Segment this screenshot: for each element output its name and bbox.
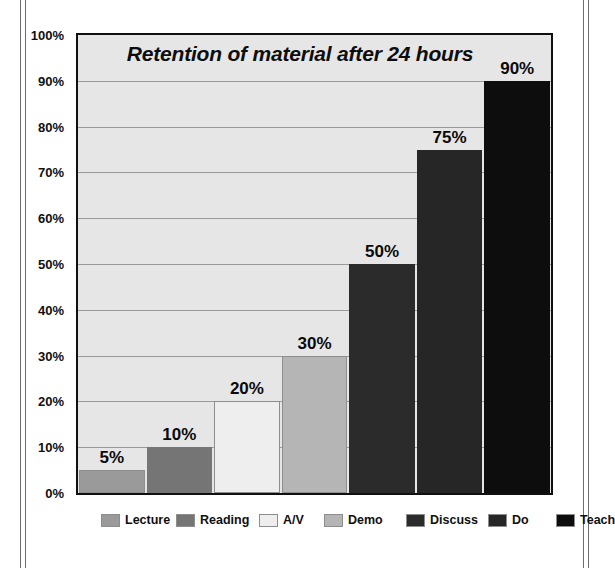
chart-title: Retention of material after 24 hours <box>110 42 490 66</box>
bar-value-label: 30% <box>282 335 348 352</box>
bar-value-label: 5% <box>79 449 145 466</box>
legend-label: Demo <box>348 514 383 527</box>
legend-swatch-icon <box>176 514 195 527</box>
y-axis-tick-label: 10% <box>38 441 64 454</box>
legend-swatch-icon <box>406 514 425 527</box>
bar-a-v <box>214 401 280 493</box>
bar-discuss <box>349 264 415 493</box>
legend-item-discuss[interactable]: Discuss <box>406 514 478 527</box>
bar-value-label: 10% <box>147 426 213 443</box>
y-axis-tick-label: 90% <box>38 74 64 87</box>
legend-label: Discuss <box>430 514 478 527</box>
legend-label: Lecture <box>125 514 170 527</box>
legend-item-a-v[interactable]: A/V <box>259 514 304 527</box>
gridline <box>78 127 551 128</box>
bar-demo <box>282 356 348 493</box>
bar-value-label: 90% <box>484 60 550 77</box>
bar-reading <box>147 447 213 493</box>
y-axis-tick-label: 100% <box>31 29 64 42</box>
y-axis-tick-label: 20% <box>38 395 64 408</box>
legend-swatch-icon <box>101 514 120 527</box>
legend-item-teach[interactable]: Teach <box>556 514 615 527</box>
bar-value-label: 75% <box>417 129 483 146</box>
y-axis-tick-label: 70% <box>38 166 64 179</box>
y-axis-tick-label: 80% <box>38 120 64 133</box>
legend-item-lecture[interactable]: Lecture <box>101 514 170 527</box>
y-axis: 0%10%20%30%40%50%60%70%80%90%100% <box>0 33 70 495</box>
gridline <box>78 81 551 82</box>
chart-legend: LectureReadingA/VDemoDiscussDoTeach <box>76 514 553 536</box>
legend-item-demo[interactable]: Demo <box>324 514 383 527</box>
y-axis-tick-label: 0% <box>45 487 64 500</box>
legend-swatch-icon <box>324 514 343 527</box>
y-axis-tick-label: 60% <box>38 212 64 225</box>
legend-item-reading[interactable]: Reading <box>176 514 249 527</box>
plot-area: 5%10%20%30%50%75%90% <box>76 33 553 495</box>
y-axis-tick-label: 50% <box>38 258 64 271</box>
legend-swatch-icon <box>488 514 507 527</box>
y-axis-tick-label: 30% <box>38 349 64 362</box>
legend-label: A/V <box>283 514 304 527</box>
legend-swatch-icon <box>259 514 278 527</box>
legend-label: Teach <box>580 514 615 527</box>
bar-lecture <box>79 470 145 493</box>
bar-teach <box>484 81 550 493</box>
legend-label: Do <box>512 514 529 527</box>
y-axis-tick-label: 40% <box>38 303 64 316</box>
legend-label: Reading <box>200 514 249 527</box>
bar-do <box>417 150 483 494</box>
bar-value-label: 20% <box>214 380 280 397</box>
bar-value-label: 50% <box>349 243 415 260</box>
legend-item-do[interactable]: Do <box>488 514 529 527</box>
legend-swatch-icon <box>556 514 575 527</box>
